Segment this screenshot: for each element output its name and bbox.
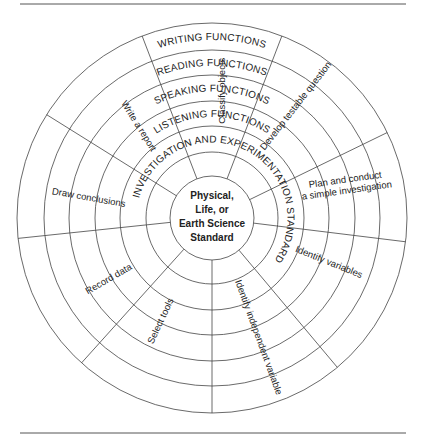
- segment-label: Identify variables: [294, 243, 364, 280]
- segment-label: Classify objects: [216, 57, 227, 123]
- segment-label: Draw conclusions: [51, 185, 126, 209]
- ring-label-listening: LISTENING FUNCTIONS: [152, 108, 273, 136]
- center-label-line: Earth Science: [179, 218, 246, 229]
- center-label-line: Standard: [190, 232, 233, 243]
- center-label-line: Life, or: [195, 204, 228, 215]
- science-language-wheel-diagram: INVESTIGATION AND EXPERIMENTATION STANDA…: [0, 0, 422, 444]
- center-standard: Physical,Life, orEarth ScienceStandard: [179, 190, 246, 243]
- segment-label: Record data: [83, 261, 134, 297]
- segment-label: Select tools: [145, 296, 176, 345]
- ring-label-speaking: SPEAKING FUNCTIONS: [152, 82, 272, 106]
- ring-label-writing: WRITING FUNCTIONS: [156, 31, 267, 50]
- segment-label: Develop testable question: [257, 59, 333, 152]
- center-label-line: Physical,: [190, 190, 234, 201]
